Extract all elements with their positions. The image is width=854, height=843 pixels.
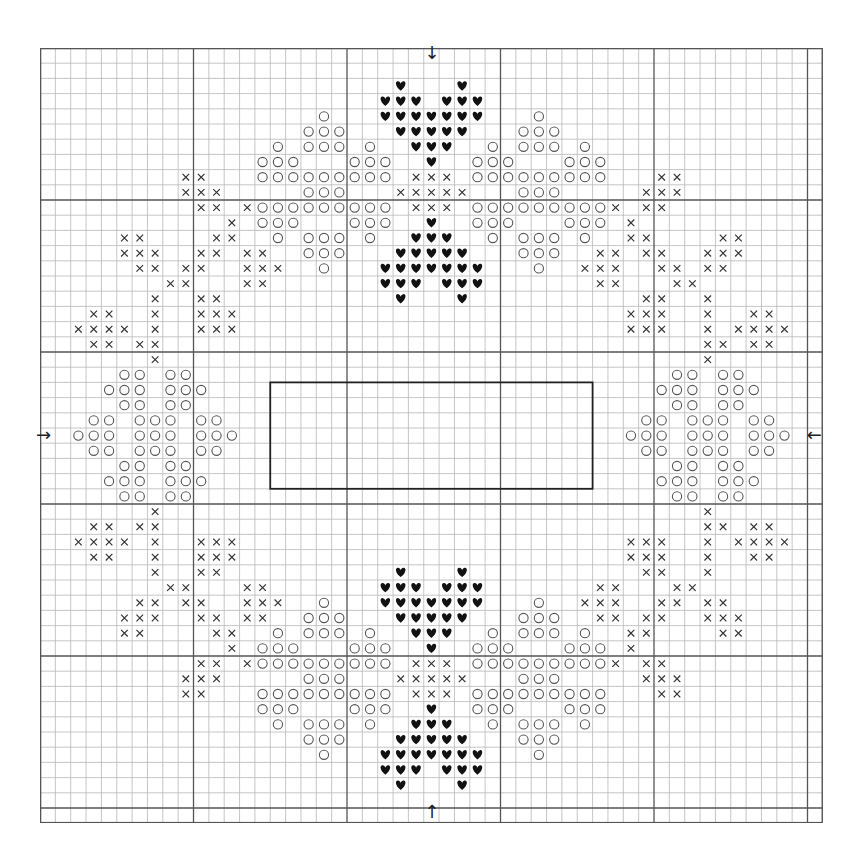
cross-symbol	[766, 326, 773, 333]
heart-symbol	[473, 750, 483, 759]
heart-symbol	[457, 248, 467, 257]
cross-symbol	[136, 265, 143, 272]
circle-symbol	[335, 173, 344, 182]
circle-symbol	[335, 188, 344, 197]
cross-symbol	[167, 280, 174, 287]
cross-symbol	[229, 630, 236, 637]
cross-symbol	[704, 311, 711, 318]
circle-symbol	[212, 446, 221, 455]
circle-symbol	[304, 203, 313, 212]
heart-symbol	[442, 233, 452, 242]
cross-symbol	[704, 250, 711, 257]
circle-symbol	[273, 142, 282, 151]
circle-symbol	[381, 644, 390, 653]
heart-symbol	[427, 628, 437, 637]
cross-symbol	[582, 265, 589, 272]
cross-symbol	[213, 204, 220, 211]
cross-symbol	[674, 174, 681, 181]
circle-symbol	[596, 705, 605, 714]
cross-symbol	[213, 554, 220, 561]
circle-symbol	[672, 477, 681, 486]
cross-symbol	[720, 630, 727, 637]
cross-symbol	[720, 265, 727, 272]
cross-symbol	[244, 280, 251, 287]
circle-symbol	[135, 431, 144, 440]
cross-symbol	[643, 204, 650, 211]
cross-symbol	[90, 524, 97, 531]
cross-symbol	[183, 280, 190, 287]
heart-symbol	[411, 613, 421, 622]
circle-symbol	[580, 218, 589, 227]
cross-symbol	[628, 645, 635, 652]
circle-symbol	[596, 203, 605, 212]
circle-symbol	[734, 477, 743, 486]
circle-symbol	[718, 446, 727, 455]
cross-symbol	[213, 539, 220, 546]
circle-symbol	[596, 157, 605, 166]
cross-symbol	[229, 554, 236, 561]
cross-symbol	[735, 250, 742, 257]
circle-symbol	[381, 705, 390, 714]
cross-symbol	[244, 600, 251, 607]
circle-symbol	[718, 492, 727, 501]
circle-symbol	[227, 431, 236, 440]
circle-symbol	[488, 173, 497, 182]
heart-symbol	[381, 264, 391, 273]
circle-symbol	[519, 659, 528, 668]
circle-symbol	[550, 249, 559, 258]
cross-symbol	[658, 554, 665, 561]
heart-symbol	[473, 279, 483, 288]
circle-symbol	[550, 203, 559, 212]
heart-symbol	[457, 598, 467, 607]
cross-symbol	[674, 691, 681, 698]
cross-symbol	[428, 174, 435, 181]
circle-symbol	[672, 461, 681, 470]
circle-symbol	[335, 720, 344, 729]
heart-symbol	[442, 613, 452, 622]
heart-symbol	[457, 583, 467, 592]
cross-symbol	[152, 250, 159, 257]
circle-symbol	[135, 492, 144, 501]
cross-symbol	[628, 630, 635, 637]
heart-symbol	[442, 112, 452, 121]
circle-symbol	[550, 629, 559, 638]
heart-symbol	[411, 583, 421, 592]
cross-symbol	[152, 311, 159, 318]
heart-symbol	[427, 735, 437, 744]
cross-symbol	[720, 524, 727, 531]
cross-symbol	[152, 569, 159, 576]
circle-symbol	[289, 705, 298, 714]
cross-symbol	[213, 630, 220, 637]
circle-symbol	[718, 431, 727, 440]
circle-symbol	[734, 370, 743, 379]
cross-symbol	[152, 356, 159, 363]
cross-symbol	[259, 265, 266, 272]
cross-symbol	[689, 584, 696, 591]
circle-symbol	[749, 431, 758, 440]
cross-symbol	[704, 508, 711, 515]
circle-symbol	[181, 461, 190, 470]
heart-symbol	[411, 112, 421, 121]
cross-symbol	[674, 189, 681, 196]
circle-symbol	[319, 112, 328, 121]
cross-symbol	[704, 296, 711, 303]
cross-symbol	[152, 508, 159, 515]
circle-symbol	[350, 218, 359, 227]
cross-symbol	[658, 296, 665, 303]
circle-symbol	[473, 659, 482, 668]
circle-symbol	[688, 370, 697, 379]
cross-symbol	[106, 539, 113, 546]
circle-symbol	[273, 720, 282, 729]
heart-symbol	[411, 735, 421, 744]
circle-symbol	[289, 203, 298, 212]
heart-symbol	[411, 264, 421, 273]
cross-symbol	[704, 539, 711, 546]
circle-symbol	[550, 173, 559, 182]
cross-symbol	[90, 311, 97, 318]
circle-symbol	[89, 431, 98, 440]
cross-symbol	[183, 600, 190, 607]
circle-symbol	[365, 218, 374, 227]
circle-symbol	[212, 416, 221, 425]
circle-symbol	[780, 431, 789, 440]
cross-symbol	[658, 691, 665, 698]
